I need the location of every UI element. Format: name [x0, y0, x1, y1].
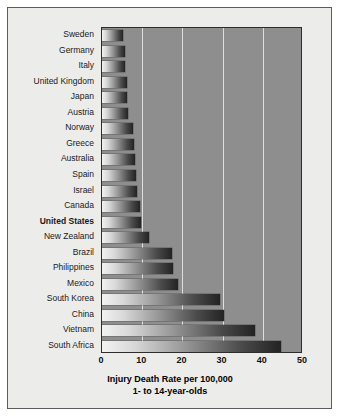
category-label-spain: Spain [0, 169, 94, 180]
bar-japan [102, 92, 127, 103]
bar-row [102, 170, 302, 181]
axis-title: Injury Death Rate per 100,000 1- to 14-y… [20, 373, 320, 397]
bar-row [102, 279, 302, 290]
bar-germany [102, 46, 125, 57]
category-label-israel: Israel [0, 185, 94, 196]
bar-israel [102, 186, 137, 197]
x-tick-0: 0 [98, 355, 103, 365]
bar-austria [102, 108, 128, 119]
bar-south-korea [102, 294, 220, 305]
category-label-austria: Austria [0, 107, 94, 118]
bar-row [102, 46, 302, 57]
bar-row [102, 248, 302, 259]
bar-united-kingdom [102, 77, 127, 88]
plot-area [101, 27, 302, 353]
bar-new-zealand [102, 232, 149, 243]
bar-row [102, 263, 302, 274]
chart-figure: SwedenGermanyItalyUnited KingdomJapanAus… [0, 0, 339, 416]
bar-row [102, 123, 302, 134]
plot-wrapper: SwedenGermanyItalyUnited KingdomJapanAus… [0, 0, 339, 416]
x-axis-tick-labels: 01020304050 [101, 355, 302, 369]
bar-row [102, 92, 302, 103]
x-tick-50: 50 [297, 355, 307, 365]
category-label-south-africa: South Africa [0, 340, 94, 351]
bar-row [102, 61, 302, 72]
bar-canada [102, 201, 140, 212]
axis-title-line2: 1- to 14-year-olds [20, 385, 320, 397]
category-label-japan: Japan [0, 91, 94, 102]
bar-spain [102, 170, 136, 181]
bar-row [102, 310, 302, 321]
bar-row [102, 217, 302, 228]
category-label-china: China [0, 309, 94, 320]
category-label-new-zealand: New Zealand [0, 231, 94, 242]
bar-brazil [102, 248, 172, 259]
x-tick-10: 10 [136, 355, 146, 365]
category-label-greece: Greece [0, 138, 94, 149]
x-tick-30: 30 [217, 355, 227, 365]
category-label-sweden: Sweden [0, 29, 94, 40]
category-label-philippines: Philippines [0, 262, 94, 273]
chart-card: SwedenGermanyItalyUnited KingdomJapanAus… [7, 7, 332, 409]
category-label-united-kingdom: United Kingdom [0, 76, 94, 87]
x-tick-20: 20 [176, 355, 186, 365]
bar-vietnam [102, 325, 255, 336]
bar-series [102, 28, 301, 352]
bar-mexico [102, 279, 178, 290]
bar-row [102, 139, 302, 150]
category-label-australia: Australia [0, 153, 94, 164]
category-label-canada: Canada [0, 200, 94, 211]
bar-row [102, 30, 302, 41]
bar-row [102, 77, 302, 88]
bar-greece [102, 139, 134, 150]
bar-norway [102, 123, 133, 134]
category-label-mexico: Mexico [0, 278, 94, 289]
bar-australia [102, 154, 135, 165]
category-label-norway: Norway [0, 122, 94, 133]
bar-philippines [102, 263, 173, 274]
bar-row [102, 186, 302, 197]
bar-south-africa [102, 341, 281, 352]
bar-row [102, 341, 302, 352]
bar-row [102, 154, 302, 165]
category-label-vietnam: Vietnam [0, 324, 94, 335]
bar-row [102, 294, 302, 305]
bar-row [102, 108, 302, 119]
bar-row [102, 325, 302, 336]
bar-italy [102, 61, 125, 72]
axis-title-line1: Injury Death Rate per 100,000 [107, 374, 233, 384]
category-label-germany: Germany [0, 45, 94, 56]
category-label-brazil: Brazil [0, 247, 94, 258]
bar-china [102, 310, 224, 321]
bar-united-states [102, 217, 141, 228]
category-label-united-states: United States [0, 216, 94, 227]
bar-sweden [102, 30, 123, 41]
bar-row [102, 201, 302, 212]
bar-row [102, 232, 302, 243]
category-label-south-korea: South Korea [0, 293, 94, 304]
x-tick-40: 40 [257, 355, 267, 365]
category-label-italy: Italy [0, 60, 94, 71]
